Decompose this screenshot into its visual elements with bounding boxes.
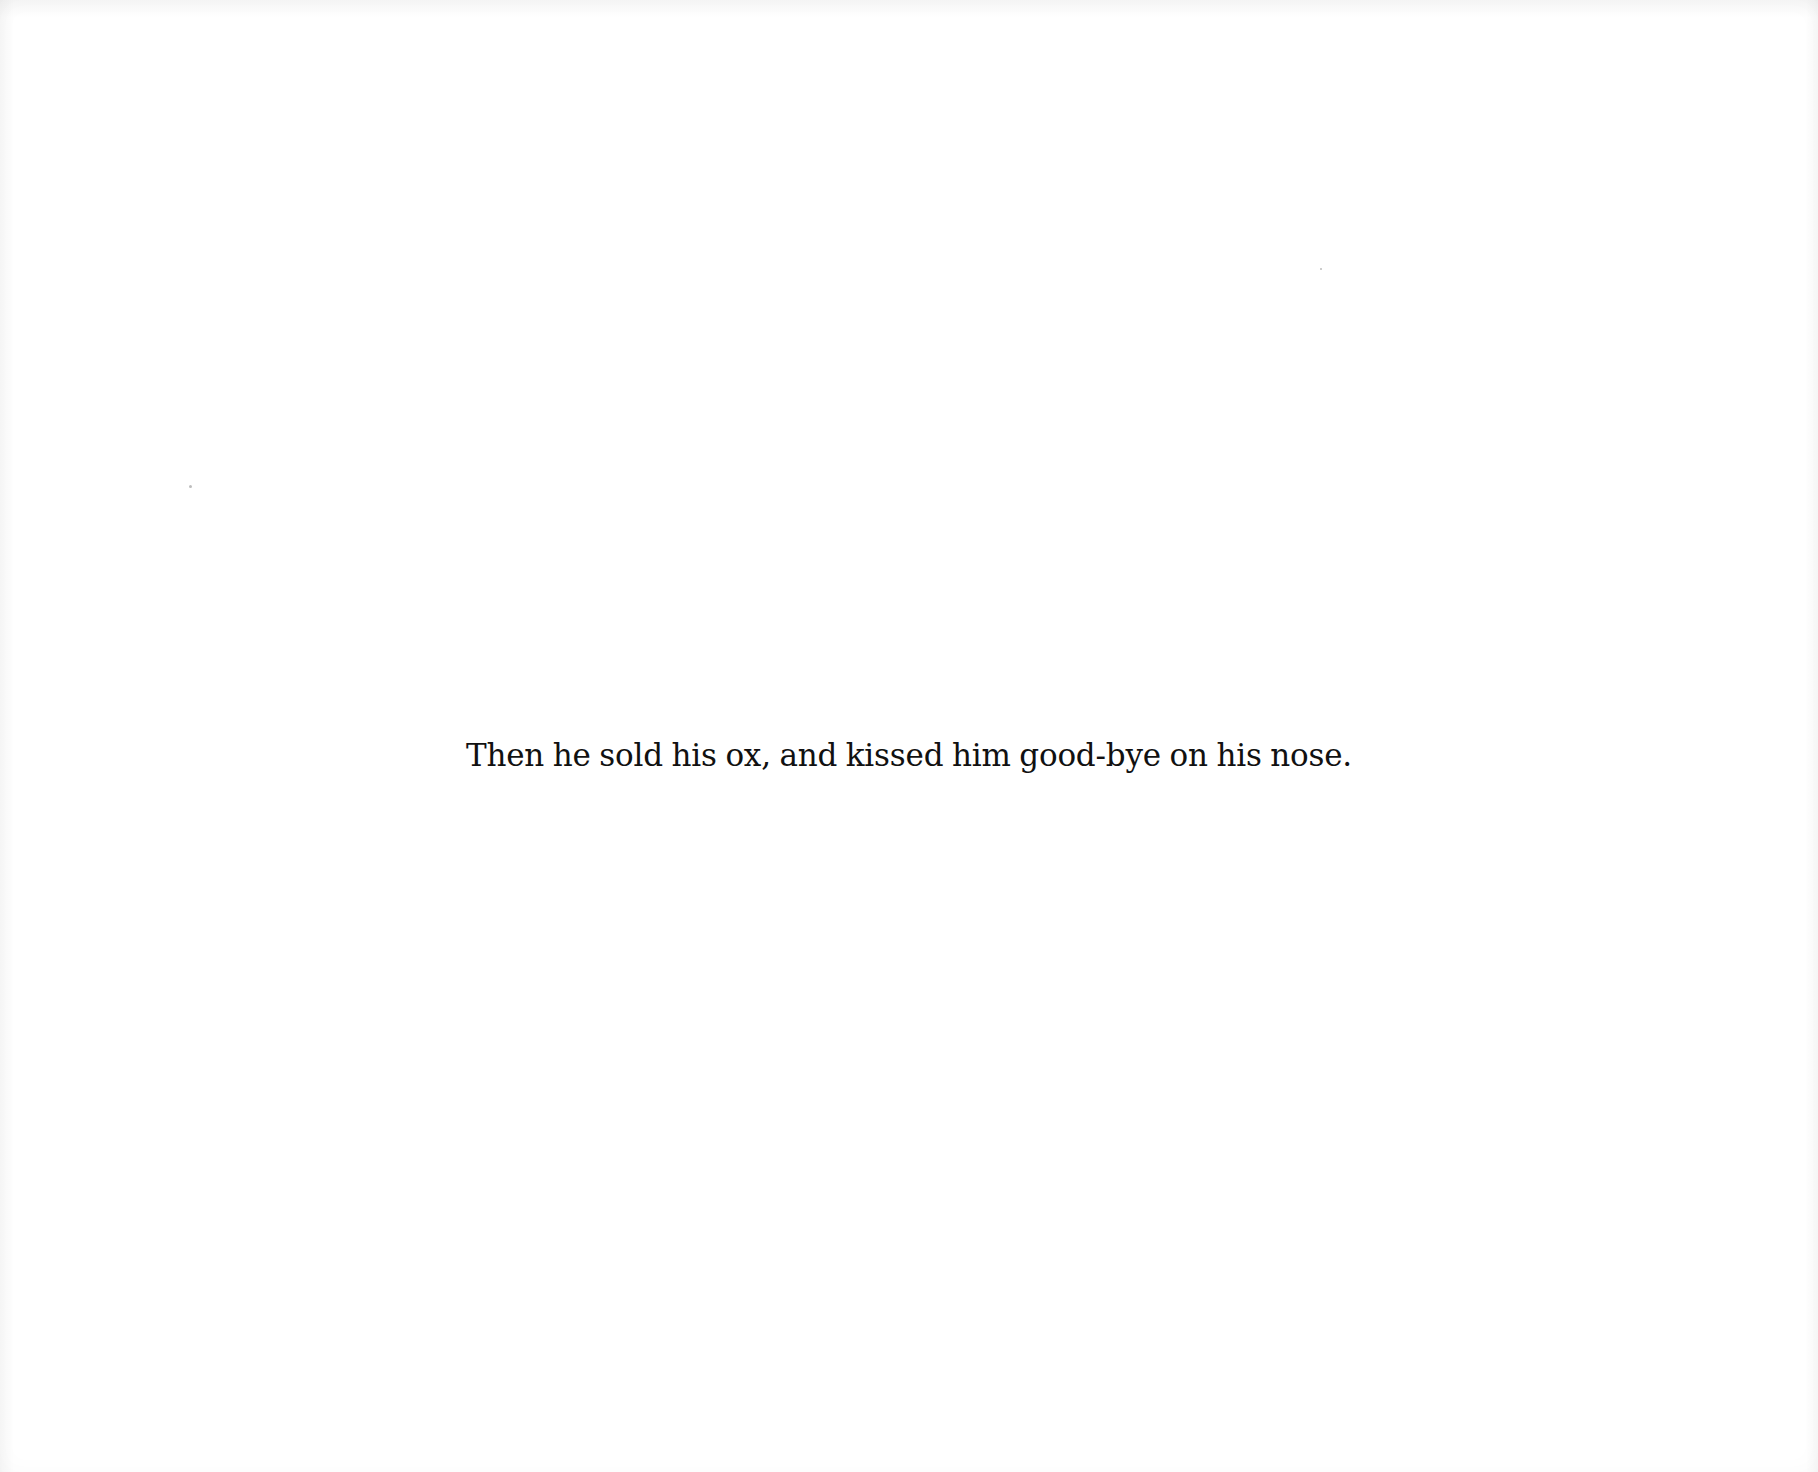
story-caption: Then he sold his ox, and kissed him good… (0, 733, 1818, 777)
paper-speck (189, 485, 192, 488)
paper-speck (1320, 268, 1322, 270)
page-edge-shadow-top (0, 0, 1818, 18)
book-page: Then he sold his ox, and kissed him good… (0, 0, 1818, 1472)
